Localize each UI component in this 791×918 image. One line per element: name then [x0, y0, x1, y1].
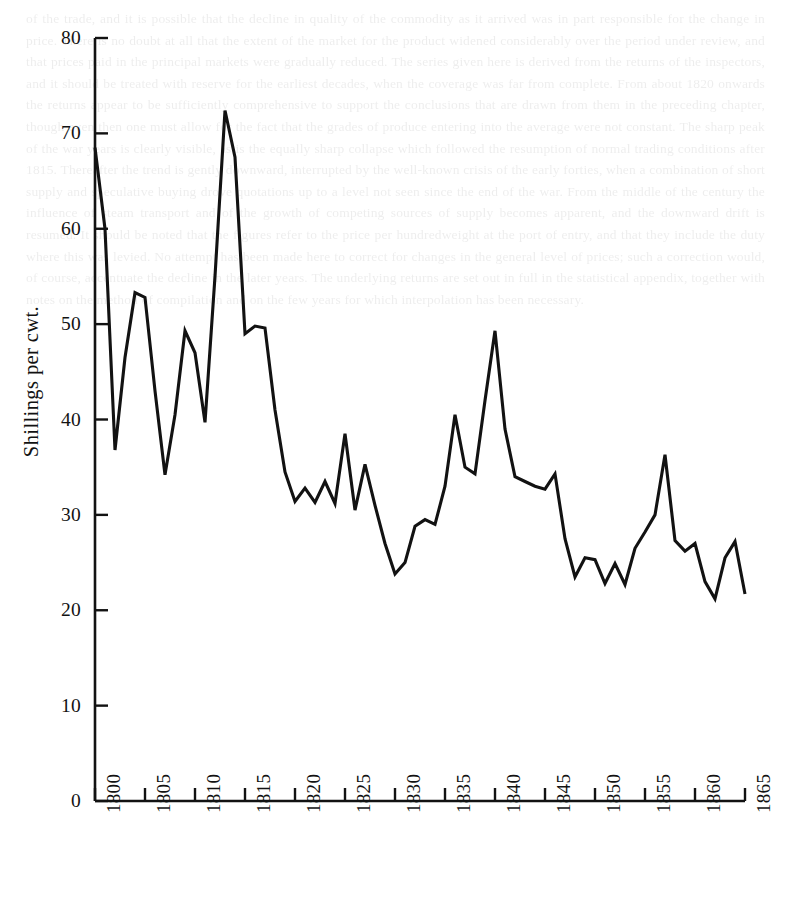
x-axis-tick-label: 1865	[753, 774, 775, 813]
x-axis-tick-label: 1845	[553, 774, 575, 813]
x-axis-tick-label: 1820	[303, 774, 325, 813]
y-axis-tick-label: 20	[0, 599, 81, 621]
x-axis-tick-label: 1810	[203, 774, 225, 813]
y-axis-title: Shillings per cwt.	[20, 272, 43, 492]
x-axis-tick-label: 1800	[103, 774, 125, 813]
x-axis-tick-label: 1825	[353, 774, 375, 813]
y-axis-tick-label: 80	[0, 27, 81, 49]
x-axis-tick-label: 1835	[453, 774, 475, 813]
y-axis-tick-label: 50	[0, 313, 81, 335]
x-axis-tick-label: 1860	[703, 774, 725, 813]
chart-figure: Shillings per cwt. 01020304050607080 180…	[0, 0, 791, 918]
y-axis-tick-label: 30	[0, 504, 81, 526]
x-axis-tick-label: 1815	[253, 774, 275, 813]
x-axis-tick-label: 1805	[153, 774, 175, 813]
y-axis-tick-label: 60	[0, 218, 81, 240]
x-axis-tick-label: 1830	[403, 774, 425, 813]
y-axis-tick-label: 40	[0, 409, 81, 431]
x-axis-tick-label: 1840	[503, 774, 525, 813]
y-axis-tick-label: 70	[0, 122, 81, 144]
x-axis-tick-label: 1855	[653, 774, 675, 813]
x-axis-tick-label: 1850	[603, 774, 625, 813]
y-axis-tick-label: 0	[0, 790, 81, 812]
y-axis-tick-label: 10	[0, 695, 81, 717]
price-series-line	[95, 110, 745, 598]
